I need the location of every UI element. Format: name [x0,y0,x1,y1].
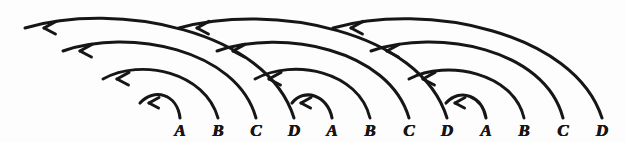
arc-c4 [333,19,602,118]
arc-c3 [371,42,563,118]
arc-a4 [25,18,294,118]
arrowhead-a4-lower [44,28,55,34]
arc-a3 [63,42,256,118]
arrowhead-b1-lower [301,103,311,108]
arc-diagram-figure: ABCDABCDABCD [0,0,626,142]
arrowhead-a2-lower [117,79,128,85]
arrowhead-a3-lower [80,51,91,57]
arc-paths [25,18,602,118]
arrowhead-c4-lower [351,28,362,34]
arrowhead-c3-lower [387,51,398,57]
arrowhead-a1-lower [149,103,159,108]
arc-b3 [217,42,409,118]
arrowhead-c1-lower [455,103,465,108]
arc-layer [0,0,626,142]
